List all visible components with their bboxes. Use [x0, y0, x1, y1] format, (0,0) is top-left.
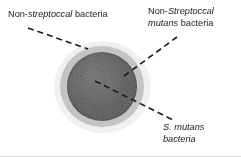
- label-non-streptoccal-suffix: bacteria: [72, 9, 107, 19]
- label-s-mutans-line2: bacteria: [163, 134, 204, 146]
- label-non-streptoccal-mutans-bacteria: Non-Streptoccal mutans bacteria: [148, 6, 214, 29]
- label-non-streptoccal-prefix: Non-: [8, 9, 28, 19]
- label-s-mutans-line1: S. mutans: [163, 122, 204, 134]
- core-texture-overlay: [67, 52, 137, 121]
- label-non-mutans-species: mutans: [148, 18, 178, 28]
- bacteria-colony-figure: Non-streptoccal bacteria Non-Streptoccal…: [0, 0, 241, 157]
- label-non-mutans-genus: Streptoccal: [168, 6, 214, 16]
- label-non-streptoccal-bacteria: Non-streptoccal bacteria: [8, 9, 108, 21]
- label-non-mutans-line1: Non-Streptoccal: [148, 6, 214, 18]
- label-non-mutans-line2: mutans bacteria: [148, 18, 214, 30]
- label-s-mutans-bacteria: S. mutans bacteria: [163, 122, 204, 145]
- label-non-mutans-prefix: Non-: [148, 6, 168, 16]
- label-non-streptoccal-italic: streptoccal: [28, 9, 72, 19]
- label-non-mutans-suffix: bacteria: [178, 18, 213, 28]
